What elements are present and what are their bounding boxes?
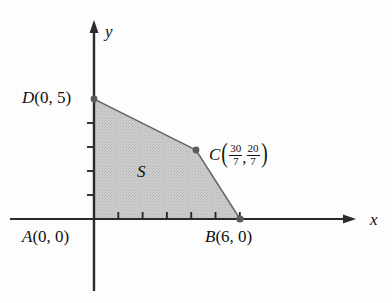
point-a-coords: (0, 0): [32, 227, 69, 246]
point-label-a: A(0, 0): [22, 228, 69, 245]
region-label-s: S: [137, 163, 146, 180]
point-c-y-denominator: 7: [247, 155, 260, 168]
point-c-letter: C: [209, 145, 220, 164]
math-figure: y x D(0, 5) A(0, 0) B(6, 0) C(307,207) S: [0, 0, 392, 303]
point-c-y-numerator: 20: [247, 143, 260, 155]
x-axis-label: x: [370, 211, 378, 228]
point-c-close-paren: ): [261, 140, 267, 167]
point-b-coords: (6, 0): [215, 227, 252, 246]
point-c-marker: [193, 147, 200, 154]
point-label-d: D(0, 5): [22, 89, 71, 106]
plot-canvas: [0, 0, 392, 303]
y-axis-arrowhead: [90, 20, 99, 33]
point-label-c: C(307,207): [209, 138, 269, 168]
point-d-marker: [91, 96, 98, 103]
y-axis-label: y: [105, 23, 113, 40]
point-b-letter: B: [205, 227, 215, 246]
point-d-letter: D: [22, 88, 34, 107]
point-c-x-fraction: 307: [229, 143, 242, 168]
point-a-letter: A: [22, 227, 32, 246]
point-c-open-paren: (: [222, 140, 228, 167]
point-c-x-numerator: 30: [229, 143, 242, 155]
point-d-coords: (0, 5): [34, 88, 71, 107]
x-axis-arrowhead: [343, 215, 356, 224]
point-label-b: B(6, 0): [205, 228, 252, 245]
point-c-x-denominator: 7: [229, 155, 242, 168]
point-c-y-fraction: 207: [247, 143, 260, 168]
point-b-marker: [236, 215, 243, 222]
